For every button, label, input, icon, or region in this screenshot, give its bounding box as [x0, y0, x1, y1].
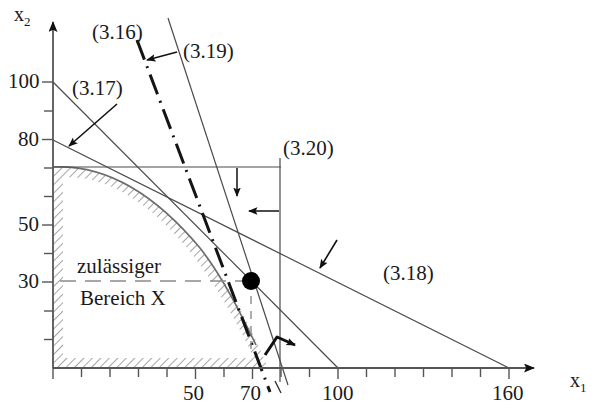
y-tick-label-100: 100	[8, 71, 40, 92]
figure-root: x2 x1 100 80 50 30 50 70 100 160 (3.16) …	[0, 0, 607, 418]
y-tick-label-80: 80	[18, 129, 39, 150]
x-axis-label-text: x	[570, 369, 580, 391]
label-3-16: (3.16)	[92, 22, 143, 43]
label-3-20: (3.20)	[283, 138, 334, 159]
optimum-point	[242, 272, 260, 290]
x-ticks	[53, 368, 509, 379]
region-label-line2: Bereich X	[80, 288, 166, 309]
x-tick-label-50: 50	[183, 383, 204, 404]
label-3-18: (3.18)	[383, 263, 434, 284]
x-axis-label: x1	[570, 370, 587, 394]
x-tick-label-160: 160	[492, 383, 524, 404]
y-tick-label-50: 50	[18, 214, 39, 235]
x-axis-label-sub: 1	[580, 380, 587, 395]
y-axis-label-sub: 2	[24, 14, 31, 29]
slash-mark	[275, 381, 281, 393]
y-axis-label-text: x	[14, 3, 24, 25]
x-tick-label-100: 100	[322, 383, 354, 404]
y-ticks	[42, 82, 53, 340]
arrow-to-3-16	[147, 52, 177, 60]
x-tick-label-70: 70	[240, 383, 261, 404]
y-tick-label-30: 30	[18, 271, 39, 292]
arrow-to-3-18	[320, 240, 337, 268]
label-3-17: (3.17)	[72, 78, 123, 99]
label-3-19: (3.19)	[183, 41, 234, 62]
region-label-line1: zulässiger	[77, 256, 161, 277]
figure-canvas	[0, 0, 607, 418]
y-axis-label: x2	[14, 4, 31, 28]
